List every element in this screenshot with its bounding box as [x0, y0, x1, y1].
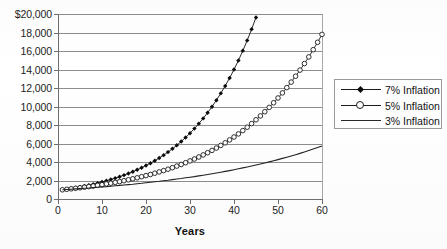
data-point-marker: [148, 161, 152, 165]
series-2: [60, 32, 324, 192]
data-point-marker: [201, 153, 206, 158]
legend-label-3: 3% Inflation: [385, 114, 440, 128]
data-point-marker: [135, 168, 139, 172]
data-point-marker: [241, 49, 245, 53]
data-point-marker: [109, 181, 114, 186]
legend-marker-plain-line-icon: [339, 113, 383, 129]
data-point-marker: [135, 176, 140, 181]
data-point-marker: [245, 125, 250, 130]
data-point-marker: [153, 158, 157, 162]
data-point-marker: [188, 159, 193, 164]
data-point-marker: [267, 105, 272, 110]
data-point-marker: [122, 173, 126, 177]
legend-label-7: 7% Inflation: [385, 83, 440, 97]
data-point-marker: [214, 146, 219, 151]
data-point-marker: [170, 165, 175, 170]
data-point-marker: [161, 168, 166, 173]
data-point-marker: [232, 67, 236, 71]
data-point-marker: [153, 171, 158, 176]
legend-item-7: 7% Inflation: [335, 82, 443, 98]
data-point-marker: [117, 175, 121, 179]
legend-marker-filled-diamond-icon: [339, 82, 383, 98]
series-1: [60, 15, 258, 192]
data-point-marker: [157, 170, 162, 175]
data-point-marker: [126, 178, 131, 183]
data-point-marker: [227, 76, 231, 80]
data-point-marker: [236, 132, 241, 137]
data-point-marker: [175, 164, 180, 169]
legend-label-5: 5% Inflation: [385, 99, 440, 113]
data-point-marker: [126, 171, 130, 175]
data-point-marker: [197, 155, 202, 160]
data-point-marker: [302, 61, 307, 66]
data-point-marker: [263, 109, 268, 114]
data-point-marker: [280, 91, 285, 96]
data-point-marker: [183, 160, 188, 165]
data-point-marker: [223, 141, 228, 146]
data-point-marker: [139, 166, 143, 170]
data-point-marker: [298, 68, 303, 73]
data-point-marker: [320, 32, 325, 37]
data-point-marker: [104, 182, 109, 187]
data-point-marker: [241, 128, 246, 133]
data-point-marker: [271, 101, 276, 106]
inflation-growth-chart: 02,0004,0006,0008,00010,00012,00014,0001…: [0, 0, 447, 249]
data-point-marker: [131, 169, 135, 173]
data-point-marker: [289, 80, 294, 85]
data-point-marker: [236, 58, 240, 62]
data-point-marker: [245, 38, 249, 42]
data-point-marker: [315, 40, 320, 45]
chart-legend: 7% Inflation 5% Inflation 3% Inflation: [334, 79, 442, 129]
data-point-marker: [148, 172, 153, 177]
data-point-marker: [139, 174, 144, 179]
data-point-marker: [122, 178, 127, 183]
data-point-marker: [179, 162, 184, 167]
data-point-marker: [144, 173, 149, 178]
legend-marker-open-circle-icon: [339, 98, 383, 114]
data-point-marker: [276, 96, 281, 101]
series-line: [62, 17, 256, 189]
data-point-marker: [285, 85, 290, 90]
data-point-marker: [311, 47, 316, 52]
data-point-marker: [131, 177, 136, 182]
data-point-marker: [144, 163, 148, 167]
data-point-marker: [232, 135, 237, 140]
data-point-marker: [192, 157, 197, 162]
data-point-marker: [166, 167, 171, 172]
series-line: [62, 34, 322, 189]
data-point-marker: [219, 143, 224, 148]
data-point-marker: [293, 74, 298, 79]
data-point-marker: [117, 179, 122, 184]
data-point-marker: [223, 84, 227, 88]
x-axis-title: Years: [58, 225, 322, 237]
data-point-marker: [254, 15, 258, 19]
legend-item-5: 5% Inflation: [335, 98, 443, 114]
data-point-marker: [249, 27, 253, 31]
data-point-marker: [249, 121, 254, 126]
data-point-marker: [227, 138, 232, 143]
legend-item-3: 3% Inflation: [335, 113, 443, 129]
data-point-marker: [258, 114, 263, 119]
data-point-marker: [219, 91, 223, 95]
data-point-marker: [113, 180, 118, 185]
data-point-marker: [254, 118, 259, 123]
data-point-marker: [205, 150, 210, 155]
data-point-marker: [210, 148, 215, 153]
data-point-marker: [307, 55, 312, 60]
data-point-marker: [78, 186, 83, 191]
